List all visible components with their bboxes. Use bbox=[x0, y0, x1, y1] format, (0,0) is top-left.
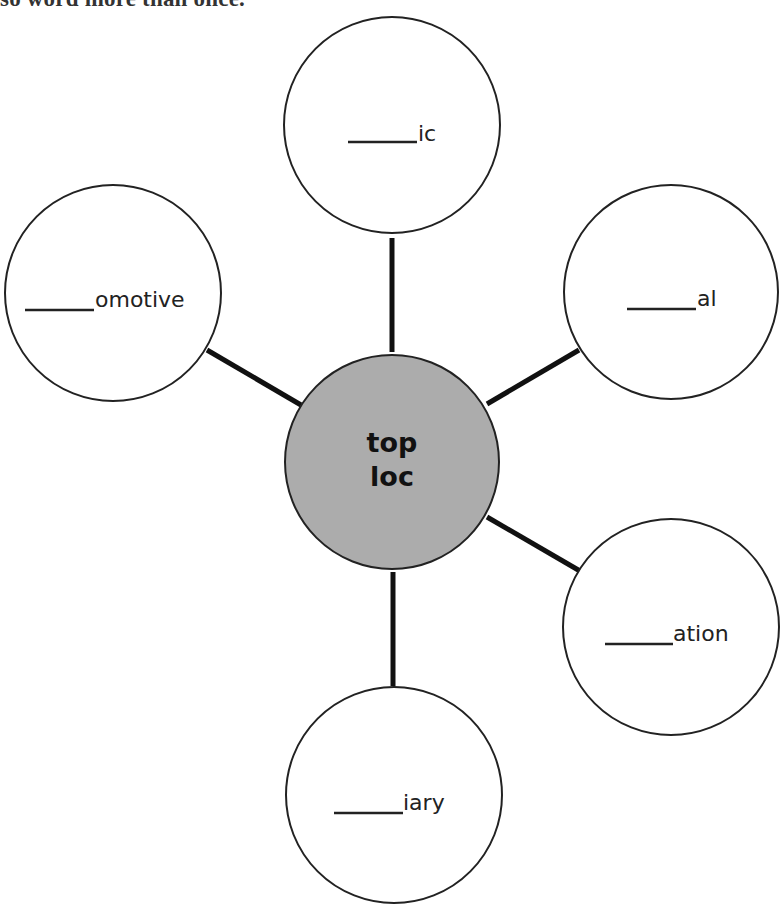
connector-upper-left bbox=[207, 350, 301, 405]
bubble-circle bbox=[286, 687, 502, 903]
bubble-circle bbox=[284, 17, 500, 233]
hub-bubble: top loc bbox=[285, 355, 499, 569]
connector-lower-right bbox=[487, 517, 580, 571]
word-suffix: ic bbox=[418, 121, 436, 146]
word-suffix: iary bbox=[403, 790, 445, 815]
bubble-upper-right: al bbox=[564, 185, 778, 399]
hub-label-line2: loc bbox=[370, 461, 414, 492]
word-suffix: al bbox=[697, 286, 717, 311]
word-suffix: omotive bbox=[95, 287, 185, 312]
bubble-circle bbox=[563, 519, 779, 735]
bubble-circle bbox=[564, 185, 778, 399]
bubble-lower-right: ation bbox=[563, 519, 779, 735]
word-web-diagram: top loc ic omotive al ation iary bbox=[0, 0, 780, 907]
bubble-upper-left: omotive bbox=[5, 185, 221, 401]
word-suffix: ation bbox=[673, 621, 729, 646]
bubble-top: ic bbox=[284, 17, 500, 233]
bubble-bottom: iary bbox=[286, 687, 502, 903]
hub-label-line1: top bbox=[367, 427, 418, 458]
connector-upper-right bbox=[487, 350, 579, 404]
